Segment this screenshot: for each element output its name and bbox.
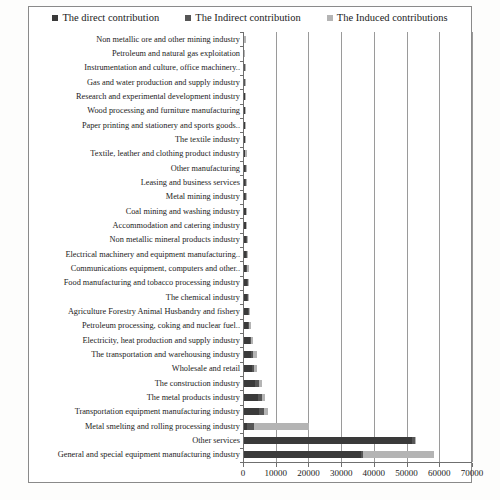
- bar-segment: [248, 279, 249, 286]
- bar-segment: [246, 165, 247, 172]
- bar-segment: [247, 423, 254, 430]
- category-label: Petroleum and natural gas exploitation: [112, 49, 240, 58]
- bar-segment: [246, 193, 247, 200]
- gridline: [374, 32, 375, 462]
- x-axis-tick-label: 10000: [264, 468, 287, 479]
- bar-segment: [245, 122, 246, 129]
- bar-segment: [249, 308, 250, 315]
- category-label: Communications equipment, computers and …: [71, 264, 240, 273]
- bar-segment: [244, 50, 245, 57]
- x-axis-tick: [308, 463, 309, 467]
- x-axis-tick-label: 50000: [395, 468, 418, 479]
- bar-segment: [249, 322, 251, 329]
- bar-segment: [248, 294, 249, 301]
- y-axis-tick: [240, 433, 243, 434]
- y-axis-tick: [240, 405, 243, 406]
- x-axis-tick-labels: 010000200003000040000500006000070000: [243, 468, 472, 484]
- bar-segment: [244, 380, 255, 387]
- y-axis-tick: [240, 247, 243, 248]
- category-label: Paper printing and stationery and sports…: [82, 121, 240, 130]
- y-axis-tick: [240, 304, 243, 305]
- category-label: Accommodation and catering industry: [113, 221, 240, 230]
- x-axis-tick: [341, 463, 342, 467]
- y-axis-tick: [240, 118, 243, 119]
- category-label: The textile industry: [175, 135, 240, 144]
- bar-segment: [262, 394, 265, 401]
- x-axis-tick: [374, 463, 375, 467]
- category-label: The transportation and warehousing indus…: [91, 350, 240, 359]
- bar-segment: [245, 136, 246, 143]
- category-label: Electricity, heat production and supply …: [82, 336, 240, 345]
- y-axis-tick: [240, 175, 243, 176]
- y-axis-tick: [240, 333, 243, 334]
- y-axis-tick: [240, 204, 243, 205]
- category-label: Other services: [192, 436, 240, 445]
- category-label: Wood processing and furniture manufactur…: [87, 106, 240, 115]
- category-label: Research and experimental development in…: [76, 92, 240, 101]
- x-axis-tick-label: 0: [241, 468, 246, 479]
- bar-segment: [245, 79, 246, 86]
- bar-segment: [245, 93, 246, 100]
- y-axis-tick: [240, 132, 243, 133]
- bar-segment: [246, 222, 247, 229]
- square-marker-icon: [185, 15, 191, 21]
- y-axis-tick: [240, 61, 243, 62]
- category-label: Wholesale and retail: [172, 364, 240, 373]
- y-axis-tick: [240, 276, 243, 277]
- legend-item: The Indirect contribution: [185, 12, 301, 24]
- bar-segment: [246, 179, 247, 186]
- gridline: [276, 32, 277, 462]
- category-label: Electrical machinery and equipment manuf…: [65, 250, 240, 259]
- gridline: [439, 32, 440, 462]
- x-axis-tick: [407, 463, 408, 467]
- x-axis-tick-label: 30000: [330, 468, 353, 479]
- category-label: Metal mining industry: [166, 192, 240, 201]
- category-label: Gas and water production and supply indu…: [87, 78, 240, 87]
- x-axis-tick: [243, 463, 244, 467]
- y-axis-tick: [240, 32, 243, 33]
- y-axis-tick: [240, 390, 243, 391]
- bars-and-gridlines: [243, 32, 472, 462]
- bar-segment: [254, 423, 310, 430]
- y-axis-tick: [240, 46, 243, 47]
- y-axis-tick: [240, 448, 243, 449]
- x-axis-tick-label: 60000: [428, 468, 451, 479]
- category-label: Food manufacturing and tobacco processin…: [64, 278, 240, 287]
- category-label: Instrumentation and culture, office mach…: [84, 63, 240, 72]
- y-axis-tick: [240, 347, 243, 348]
- y-axis-tick: [240, 75, 243, 76]
- category-label: Non metallic mineral products industry: [110, 235, 240, 244]
- x-axis-tick-label: 70000: [461, 468, 484, 479]
- x-axis-tick: [472, 463, 473, 467]
- bar-segment: [246, 208, 247, 215]
- bar-segment: [244, 394, 258, 401]
- bar-segment: [251, 337, 252, 344]
- category-label: Petroleum processing, coking and nuclear…: [82, 321, 240, 330]
- plot-area: Non metallic ore and other mining indust…: [28, 32, 472, 472]
- y-axis-tick: [240, 161, 243, 162]
- category-label: Textile, leather and clothing product in…: [90, 149, 240, 158]
- gridline: [407, 32, 408, 462]
- y-axis-tick: [240, 319, 243, 320]
- legend-item: The Induced contributions: [327, 12, 448, 24]
- square-marker-icon: [327, 15, 333, 21]
- bar-segment: [247, 251, 248, 258]
- category-label: The construction industry: [155, 379, 240, 388]
- category-label: The metal products industry: [147, 393, 240, 402]
- y-axis-tick: [240, 261, 243, 262]
- category-label: Transportation equipment manufacturing i…: [75, 407, 240, 416]
- x-axis-line: [243, 462, 472, 463]
- bar-segment: [253, 351, 258, 358]
- x-axis-tick: [439, 463, 440, 467]
- y-axis-tick: [240, 89, 243, 90]
- y-axis-tick: [240, 104, 243, 105]
- legend-item-label: The Indirect contribution: [195, 12, 301, 24]
- bar-segment: [244, 408, 259, 415]
- y-axis-tick: [240, 362, 243, 363]
- category-label: Non metallic ore and other mining indust…: [96, 35, 240, 44]
- bar-segment: [264, 408, 268, 415]
- category-label: Agriculture Forestry Animal Husbandry an…: [68, 307, 240, 316]
- bar-segment: [363, 451, 433, 458]
- y-axis-tick: [240, 190, 243, 191]
- y-axis-tick: [240, 376, 243, 377]
